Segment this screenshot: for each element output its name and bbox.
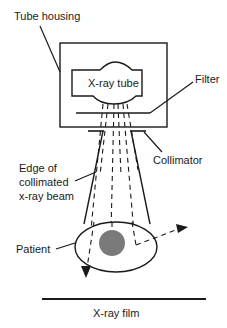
- collimator-leader: [144, 132, 162, 152]
- patient-leader: [56, 243, 75, 249]
- scattered-ray-arrow: [176, 224, 188, 233]
- filter-leader: [150, 82, 193, 113]
- tube-housing-leader: [40, 26, 60, 72]
- label-xray-film: X-ray film: [93, 307, 139, 320]
- beam-edge-right: [131, 131, 150, 224]
- label-tube-housing: Tube housing: [14, 10, 80, 23]
- beam-edge-left: [84, 131, 103, 224]
- label-patient: Patient: [16, 243, 50, 256]
- label-filter: Filter: [195, 73, 219, 86]
- label-collimator: Collimator: [153, 154, 203, 167]
- label-xray-tube: X-ray tube: [88, 77, 139, 90]
- target-object: [99, 230, 125, 256]
- transmitted-ray-arrow: [81, 266, 91, 278]
- label-beam-edge: Edge of collimated x-ray beam: [19, 161, 74, 203]
